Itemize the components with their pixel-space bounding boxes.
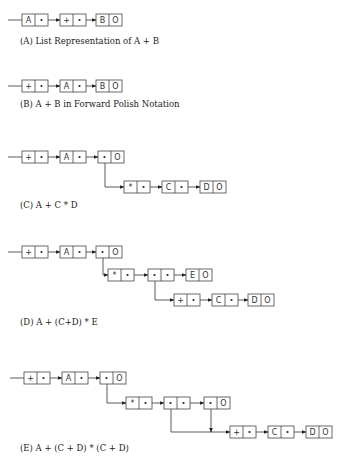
node-left-value: +	[25, 153, 32, 162]
figure-e: +AO*O+CDO(E) A + (C + D) * (C + D)	[10, 372, 332, 453]
pointer-dot-icon	[40, 156, 42, 158]
node-right-value: O	[114, 153, 120, 162]
list-node: O	[100, 372, 126, 384]
pointer-dot-icon	[169, 402, 171, 404]
list-node: +	[22, 151, 48, 163]
node-right-value: O	[112, 248, 118, 257]
pointer-dot-icon	[182, 402, 184, 404]
figure-caption: (C) A + C * D	[20, 200, 78, 210]
node-left-value: *	[129, 183, 133, 192]
node-left-value: D	[203, 183, 209, 192]
list-representation-diagram: A+BO(A) List Representation of A + B+ABO…	[0, 0, 347, 462]
list-node: +	[22, 246, 48, 258]
list-node: A	[62, 372, 88, 384]
list-node: +	[174, 294, 200, 306]
pointer-dot-icon	[126, 274, 128, 276]
pointer-dot-icon	[80, 377, 82, 379]
list-node: +	[60, 14, 86, 26]
pointer-dot-icon	[144, 402, 146, 404]
pointer-dot-icon	[166, 274, 168, 276]
list-node: C	[268, 426, 294, 438]
node-right-value: O	[112, 82, 118, 91]
node-left-value: A	[26, 16, 32, 25]
list-node: DO	[200, 181, 226, 193]
node-left-value: C	[272, 428, 278, 437]
list-node: BO	[96, 80, 122, 92]
node-left-value: +	[25, 248, 32, 257]
list-node: A	[60, 246, 86, 258]
node-left-value: C	[216, 296, 222, 305]
node-left-value: *	[113, 271, 117, 280]
node-left-value: C	[166, 183, 172, 192]
list-node	[164, 397, 190, 409]
list-node: DO	[306, 426, 332, 438]
figure-a: A+BO(A) List Representation of A + B	[8, 14, 159, 46]
list-node: C	[162, 181, 188, 193]
node-right-value: O	[322, 428, 328, 437]
figure-caption: (D) A + (C+D) * E	[20, 317, 98, 327]
figure-caption: (A) List Representation of A + B	[20, 36, 159, 46]
pointer-dot-icon	[142, 186, 144, 188]
node-left-value: +	[177, 296, 184, 305]
list-node: +	[24, 372, 50, 384]
pointer-dot-icon	[78, 251, 80, 253]
pointer-dot-icon	[40, 19, 42, 21]
list-node: O	[96, 246, 122, 258]
figure-c: +AO*CDO(C) A + C * D	[8, 151, 226, 210]
node-left-value: +	[233, 428, 240, 437]
figure-caption: (E) A + (C + D) * (C + D)	[20, 443, 129, 453]
list-node: A	[60, 151, 86, 163]
list-node: BO	[96, 14, 122, 26]
pointer-dot-icon	[78, 156, 80, 158]
node-left-value: A	[64, 153, 70, 162]
pointer-dot-icon	[180, 186, 182, 188]
pointer-dot-icon	[78, 85, 80, 87]
pointer-dot-icon	[40, 85, 42, 87]
figure-caption: (B) A + B in Forward Polish Notation	[20, 99, 180, 109]
node-left-value: +	[63, 16, 70, 25]
node-right-value: O	[264, 296, 270, 305]
node-left-value: A	[64, 82, 70, 91]
pointer-dot-icon	[78, 19, 80, 21]
pointer-dot-icon	[101, 251, 103, 253]
node-right-value: O	[220, 399, 226, 408]
list-node: *	[124, 181, 150, 193]
node-right-value: O	[202, 271, 208, 280]
list-node: O	[204, 397, 230, 409]
node-left-value: +	[27, 374, 34, 383]
list-node: +	[22, 80, 48, 92]
list-node: +	[230, 426, 256, 438]
pointer-dot-icon	[192, 299, 194, 301]
figure-d: +AO*EO+CDO(D) A + (C+D) * E	[8, 246, 274, 327]
pointer-dot-icon	[40, 251, 42, 253]
list-node: *	[108, 269, 134, 281]
list-node: C	[212, 294, 238, 306]
node-left-value: A	[64, 248, 70, 257]
pointer-dot-icon	[230, 299, 232, 301]
list-node: EO	[186, 269, 212, 281]
node-right-value: O	[112, 16, 118, 25]
pointer-dot-icon	[209, 402, 211, 404]
list-node	[148, 269, 174, 281]
node-left-value: +	[25, 82, 32, 91]
node-left-value: D	[309, 428, 315, 437]
list-node: O	[98, 151, 124, 163]
pointer-dot-icon	[103, 156, 105, 158]
list-node: A	[60, 80, 86, 92]
figure-b: +ABO(B) A + B in Forward Polish Notation	[8, 80, 180, 109]
node-left-value: A	[66, 374, 72, 383]
list-node: *	[126, 397, 152, 409]
pointer-dot-icon	[248, 431, 250, 433]
pointer-dot-icon	[153, 274, 155, 276]
list-node: A	[22, 14, 48, 26]
node-left-value: E	[190, 271, 195, 280]
figures-layer: A+BO(A) List Representation of A + B+ABO…	[8, 14, 332, 453]
pointer-dot-icon	[42, 377, 44, 379]
list-node: DO	[248, 294, 274, 306]
node-left-value: B	[100, 82, 106, 91]
node-left-value: D	[251, 296, 257, 305]
pointer-dot-icon	[105, 377, 107, 379]
node-left-value: B	[100, 16, 106, 25]
node-right-value: O	[216, 183, 222, 192]
node-left-value: *	[131, 399, 135, 408]
